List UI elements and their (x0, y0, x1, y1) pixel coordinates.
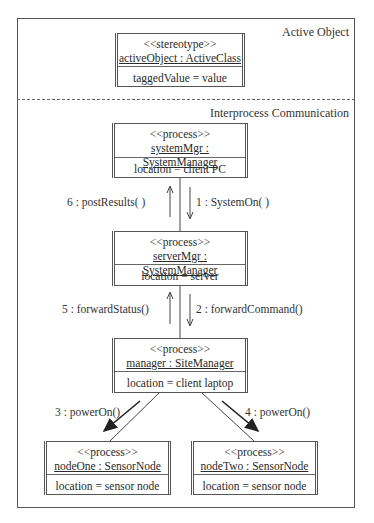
stereotype-label: <<process>> (194, 445, 315, 459)
active-object-box[interactable]: <<stereotype>> activeObject : ActiveClas… (115, 33, 245, 87)
message-3-label: 3 : powerOn() (55, 406, 120, 418)
message-2-label: 2 : forwardCommand() (196, 303, 303, 315)
object-attribute: location = client laptop (115, 372, 245, 390)
servermgr-box[interactable]: <<process>> serverMgr : SystemManager lo… (112, 231, 248, 286)
stereotype-label: <<process>> (115, 127, 245, 141)
object-name: manager : SiteManager (115, 356, 245, 370)
message-4-label: 4 : powerOn() (245, 406, 310, 418)
object-name: nodeTwo : SensorNode (194, 459, 315, 473)
message-6-label: 6 : postResults( ) (67, 196, 145, 208)
message-1-label: 1 : SystemOn( ) (196, 196, 269, 208)
stereotype-label: <<process>> (47, 445, 168, 459)
object-attribute: location = sensor node (194, 475, 315, 493)
object-name: activeObject : ActiveClass (118, 51, 242, 65)
object-attribute: taggedValue = value (118, 67, 242, 85)
nodetwo-box[interactable]: <<process>> nodeTwo : SensorNode locatio… (191, 441, 318, 495)
manager-box[interactable]: <<process>> manager : SiteManager locati… (112, 338, 248, 393)
stereotype-label: <<process>> (115, 342, 245, 356)
systemmgr-box[interactable]: <<process>> systemMgr : SystemManager lo… (112, 123, 248, 178)
message-5-label: 5 : forwardStatus() (62, 303, 149, 315)
stereotype-label: <<process>> (115, 235, 245, 249)
nodeone-box[interactable]: <<process>> nodeOne : SensorNode locatio… (44, 441, 171, 495)
object-attribute: location = sensor node (47, 475, 168, 493)
stereotype-label: <<stereotype>> (118, 37, 242, 51)
object-name: nodeOne : SensorNode (47, 459, 168, 473)
